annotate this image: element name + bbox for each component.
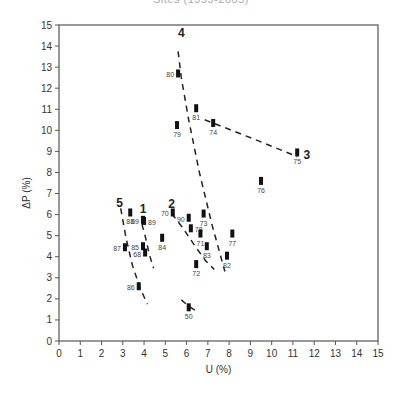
data-point-label: 83 bbox=[203, 252, 211, 259]
y-tick-label: 9 bbox=[46, 146, 52, 157]
data-point-label: 74 bbox=[209, 129, 217, 136]
data-point bbox=[194, 260, 198, 268]
chart-title: Sites (1999-2005) bbox=[0, 0, 402, 5]
scatter-chart: Sites (1999-2005) 0123456789101112131415… bbox=[0, 0, 402, 393]
trend-line-4 bbox=[178, 51, 225, 271]
x-tick-label: 1 bbox=[77, 348, 83, 359]
y-tick-label: 3 bbox=[46, 272, 52, 283]
x-tick-label: 12 bbox=[309, 348, 321, 359]
x-tick-label: 5 bbox=[163, 348, 169, 359]
data-point bbox=[225, 252, 229, 260]
data-point bbox=[187, 214, 191, 222]
data-point bbox=[194, 104, 198, 112]
x-tick-label: 2 bbox=[99, 348, 105, 359]
x-tick-label: 15 bbox=[372, 348, 384, 359]
data-point bbox=[142, 217, 146, 225]
trend-line-3 bbox=[205, 120, 298, 157]
trend-line-label: 1 bbox=[140, 202, 147, 216]
x-tick-label: 10 bbox=[266, 348, 278, 359]
y-tick-label: 10 bbox=[41, 125, 53, 136]
x-tick-label: 11 bbox=[288, 348, 299, 359]
data-point bbox=[160, 234, 164, 242]
data-point-label: 72 bbox=[192, 270, 200, 277]
trend-line-label: 4 bbox=[178, 26, 185, 40]
data-point bbox=[198, 230, 202, 238]
x-axis-label: U (%) bbox=[206, 364, 232, 375]
data-point bbox=[295, 148, 299, 156]
data-point-label: 84 bbox=[158, 244, 166, 251]
data-point bbox=[211, 119, 215, 127]
x-tick-label: 4 bbox=[141, 348, 147, 359]
x-tick-label: 14 bbox=[351, 348, 363, 359]
trend-line-label: 3 bbox=[303, 148, 310, 162]
data-point bbox=[187, 303, 191, 311]
data-point-label: 89 bbox=[148, 219, 156, 226]
data-point-label: 90 bbox=[177, 216, 185, 223]
data-point bbox=[123, 243, 127, 251]
x-tick-label: 8 bbox=[226, 348, 232, 359]
data-point-label: 86 bbox=[127, 284, 135, 291]
plot-area: 0123456789101112131415012345678910111213… bbox=[0, 0, 402, 393]
data-point bbox=[175, 121, 179, 129]
data-point-label: 79 bbox=[173, 131, 181, 138]
data-point bbox=[259, 177, 263, 185]
data-point bbox=[230, 230, 234, 238]
y-axis-label: ΔP (%) bbox=[21, 177, 32, 209]
data-point bbox=[137, 282, 141, 290]
y-tick-label: 7 bbox=[46, 188, 52, 199]
y-tick-label: 13 bbox=[41, 62, 53, 73]
x-tick-label: 13 bbox=[330, 348, 342, 359]
data-point-label: 71 bbox=[197, 240, 205, 247]
y-tick-label: 0 bbox=[46, 336, 52, 347]
trend-line-label: 5 bbox=[116, 196, 123, 210]
x-tick-label: 9 bbox=[248, 348, 254, 359]
y-tick-label: 14 bbox=[41, 41, 53, 52]
y-tick-label: 4 bbox=[46, 251, 52, 262]
y-tick-label: 5 bbox=[46, 230, 52, 241]
y-tick-label: 12 bbox=[41, 83, 53, 94]
x-tick-label: 7 bbox=[205, 348, 211, 359]
data-point-label: 77 bbox=[228, 240, 236, 247]
y-tick-label: 1 bbox=[46, 314, 52, 325]
data-point bbox=[171, 208, 175, 216]
data-point-label: 68 bbox=[133, 251, 141, 258]
data-point-label: 87 bbox=[113, 245, 121, 252]
x-tick-label: 0 bbox=[56, 348, 62, 359]
data-point-label: 81 bbox=[192, 114, 200, 121]
data-point bbox=[143, 249, 147, 257]
y-tick-label: 6 bbox=[46, 209, 52, 220]
data-point bbox=[176, 69, 180, 77]
y-tick-label: 11 bbox=[42, 104, 53, 115]
data-point-label: 80 bbox=[166, 71, 174, 78]
y-tick-label: 2 bbox=[46, 293, 52, 304]
data-point bbox=[189, 224, 193, 232]
data-point-label: 70 bbox=[161, 210, 169, 217]
data-point bbox=[205, 242, 209, 250]
data-point bbox=[128, 208, 132, 216]
data-point-label: 76 bbox=[257, 187, 265, 194]
data-point bbox=[202, 210, 206, 218]
data-point-label: 69 bbox=[131, 218, 139, 225]
y-tick-label: 15 bbox=[41, 20, 53, 31]
data-point-label: 75 bbox=[293, 158, 301, 165]
plot-frame bbox=[59, 25, 378, 341]
x-tick-label: 6 bbox=[184, 348, 190, 359]
data-point-label: 82 bbox=[223, 262, 231, 269]
x-tick-label: 3 bbox=[120, 348, 126, 359]
y-tick-label: 8 bbox=[46, 167, 52, 178]
data-point-label: 50 bbox=[185, 313, 193, 320]
